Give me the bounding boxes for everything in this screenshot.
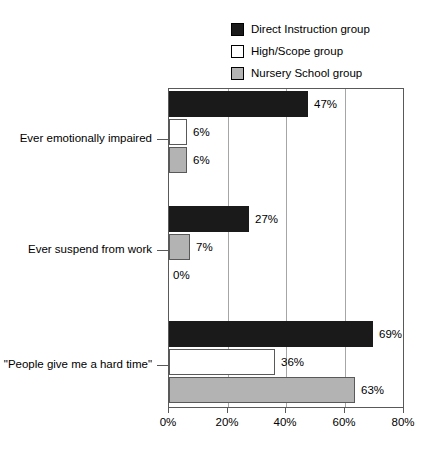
x-axis-label-0: 0% <box>148 416 188 428</box>
legend-label: High/Scope group <box>251 45 343 58</box>
bar-high-scope <box>169 349 275 375</box>
bar-high-scope <box>169 119 187 145</box>
legend-item-high-scope: High/Scope group <box>231 41 431 61</box>
category-label-people-give-me-a-hard-time: "People give me a hard time" <box>0 358 168 370</box>
x-axis-label-80: 80% <box>383 416 423 428</box>
bar-direct-instruction <box>169 91 308 117</box>
bar-direct-instruction <box>169 206 249 232</box>
bar-value-label: 7% <box>190 241 213 253</box>
x-axis-tick-icon <box>227 408 228 413</box>
bar-value-label: 63% <box>355 384 384 396</box>
bar-value-label: 0% <box>169 269 190 281</box>
x-axis-tick-icon <box>285 408 286 413</box>
category-label-ever-emotionally-impaired: Ever emotionally impaired <box>0 132 168 144</box>
category-label-text: Ever suspend from work <box>28 243 168 255</box>
legend-item-nursery-school: Nursery School group <box>231 63 431 83</box>
category-label-text: Ever emotionally impaired <box>20 132 168 144</box>
x-axis-tick-icon <box>403 408 404 413</box>
bar-value-label: 6% <box>187 154 210 166</box>
bar-nursery-school <box>169 377 355 403</box>
legend-label: Nursery School group <box>251 67 362 80</box>
axis-tick-icon <box>157 139 168 140</box>
bar-value-label: 27% <box>249 213 278 225</box>
x-axis-tick-icon <box>168 408 169 413</box>
bar-direct-instruction <box>169 321 373 347</box>
bar-value-label: 6% <box>187 126 210 138</box>
x-axis-label-60: 60% <box>324 416 364 428</box>
gridline-60 <box>345 89 346 407</box>
legend-label: Direct Instruction group <box>251 23 370 36</box>
x-axis-label-20: 20% <box>207 416 247 428</box>
chart-legend: Direct Instruction group High/Scope grou… <box>231 19 431 85</box>
category-label-text: "People give me a hard time" <box>4 358 168 370</box>
legend-swatch-white-icon <box>231 45 244 58</box>
axis-tick-icon <box>157 250 168 251</box>
plot-area: 47% 6% 6% 27% 7% 0% <box>168 88 404 408</box>
x-axis-tick-icon <box>344 408 345 413</box>
bar-nursery-school <box>169 147 187 173</box>
bar-chart: Direct Instruction group High/Scope grou… <box>0 0 431 463</box>
legend-item-direct-instruction: Direct Instruction group <box>231 19 431 39</box>
category-label-ever-suspend-from-work: Ever suspend from work <box>0 243 168 255</box>
bar-nursery-school <box>169 234 190 260</box>
x-axis-label-40: 40% <box>265 416 305 428</box>
legend-swatch-gray-icon <box>231 67 244 80</box>
bar-value-label: 69% <box>373 328 402 340</box>
bar-value-label: 47% <box>308 98 337 110</box>
axis-tick-icon <box>157 365 168 366</box>
bar-value-label: 36% <box>275 356 304 368</box>
legend-swatch-black-icon <box>231 23 244 36</box>
